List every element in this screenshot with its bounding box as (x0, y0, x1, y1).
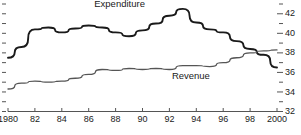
x-tick-label: 96 (218, 115, 228, 124)
x-tick-label: 82 (30, 115, 40, 124)
x-tick-label: 94 (191, 115, 201, 124)
y-tick-label: 42 (285, 9, 295, 18)
left-minor-ticks (2, 4, 6, 112)
revenue-line (8, 50, 277, 89)
x-tick-label: 1980 (0, 115, 18, 124)
x-tick-label: 86 (84, 115, 94, 124)
x-tick-label: 2000 (267, 115, 287, 124)
chart-plot-area (0, 0, 301, 135)
expenditure-line (8, 9, 277, 68)
x-axis-ticks (8, 108, 277, 112)
x-tick-label: 84 (57, 115, 67, 124)
expenditure-revenue-line-chart: 19808284868890929496982000 424038363432 … (0, 0, 301, 135)
expenditure-series-label: Expenditure (94, 0, 145, 9)
y-tick-label: 34 (285, 88, 295, 97)
right-axis-ticks (277, 4, 283, 112)
y-tick-label: 40 (285, 29, 295, 38)
y-tick-label: 38 (285, 48, 295, 57)
x-tick-label: 90 (137, 115, 147, 124)
y-tick-label: 36 (285, 68, 295, 77)
x-tick-label: 98 (245, 115, 255, 124)
y-tick-label: 32 (285, 107, 295, 116)
x-tick-label: 88 (111, 115, 121, 124)
revenue-series-label: Revenue (172, 71, 210, 81)
x-tick-label: 92 (164, 115, 174, 124)
